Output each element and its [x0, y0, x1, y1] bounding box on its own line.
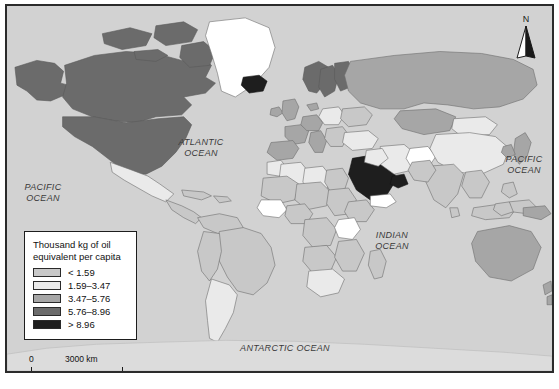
scale-bar-line	[31, 367, 123, 372]
legend-swatch-4	[33, 320, 61, 329]
legend-row: 3.47–5.76	[33, 293, 129, 304]
legend-row: 5.76–8.96	[33, 306, 129, 317]
legend-swatch-1	[33, 281, 61, 290]
north-arrow-glyph	[512, 26, 540, 60]
legend-label-4: > 8.96	[68, 319, 95, 330]
legend-swatch-3	[33, 307, 61, 316]
legend-title-line2: equivalent per capita	[33, 251, 121, 262]
scale-bar: 0 3000 km	[29, 354, 145, 373]
legend-label-0: < 1.59	[68, 267, 95, 278]
map-frame: .c0{fill:#c8c8c8;stroke:#6e6e6e;stroke-w…	[5, 4, 554, 373]
legend-label-2: 3.47–5.76	[68, 293, 110, 304]
legend-row: 1.59–3.47	[33, 280, 129, 291]
scale-bar-labels: 0 3000 km	[29, 354, 145, 365]
legend-label-1: 1.59–3.47	[68, 280, 110, 291]
legend-row: < 1.59	[33, 267, 129, 278]
legend: Thousand kg of oil equivalent per capita…	[24, 231, 137, 340]
region-russia	[345, 52, 538, 109]
north-arrow: N	[512, 14, 540, 60]
scale-bar-max: 3000 km	[65, 354, 98, 364]
legend-title-line1: Thousand kg of oil	[33, 239, 111, 250]
legend-swatch-0	[33, 268, 61, 277]
map-screenshot: .c0{fill:#c8c8c8;stroke:#6e6e6e;stroke-w…	[0, 0, 559, 389]
region-sri-lanka	[450, 208, 460, 218]
legend-row: > 8.96	[33, 319, 129, 330]
legend-label-3: 5.76–8.96	[68, 306, 110, 317]
scale-bar-zero: 0	[29, 354, 34, 364]
north-arrow-label: N	[512, 14, 540, 24]
region-new-zealand-2	[547, 295, 552, 305]
legend-swatch-2	[33, 294, 61, 303]
legend-title: Thousand kg of oil equivalent per capita	[33, 239, 129, 262]
